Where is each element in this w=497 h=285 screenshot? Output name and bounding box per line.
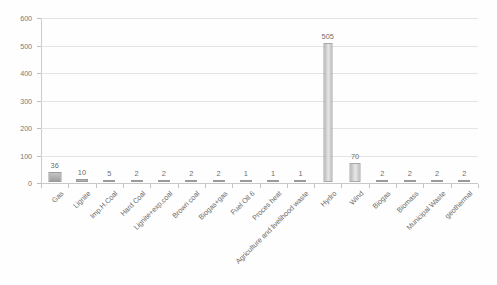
x-axis-tick	[150, 184, 151, 188]
bar-slot: 1	[232, 18, 259, 183]
x-axis-tick	[423, 184, 424, 188]
bar-value-label: 2	[135, 169, 139, 178]
bar-slot: 505	[314, 18, 341, 183]
bars-layer: 361052222111505702222	[41, 18, 478, 183]
x-axis-label-text: Wind	[348, 189, 366, 207]
y-axis-tick-label: 200	[0, 124, 32, 133]
x-axis-label: Hydro	[318, 189, 338, 209]
y-axis-tick-label: 500	[0, 41, 32, 50]
bar-slot: 2	[150, 18, 177, 183]
bar-value-label: 5	[107, 169, 111, 178]
x-axis-tick	[451, 184, 452, 188]
x-axis-label: geothermal	[443, 189, 474, 220]
x-axis-label: Imp.H.Coal	[88, 189, 119, 220]
x-axis-label: Biogas+gas	[196, 189, 229, 222]
bar-slot: 1	[260, 18, 287, 183]
bar-slot: 2	[396, 18, 423, 183]
bar	[376, 180, 388, 183]
bar-chart: 0100200300400500600 36105222211150570222…	[0, 0, 497, 285]
x-axis-tick	[68, 184, 69, 188]
bar-value-label: 2	[380, 169, 384, 178]
bar	[267, 180, 279, 183]
bar	[240, 180, 252, 183]
bar-slot: 10	[68, 18, 95, 183]
bar-slot: 70	[341, 18, 368, 183]
bar	[431, 180, 443, 183]
bar-value-label: 1	[244, 169, 248, 178]
bar-slot: 36	[41, 18, 68, 183]
x-axis-tick	[369, 184, 370, 188]
plot-area: 361052222111505702222	[41, 18, 478, 183]
x-axis-tick	[314, 184, 315, 188]
bar-slot: 2	[423, 18, 450, 183]
bar-slot: 2	[205, 18, 232, 183]
x-axis-label: Lignite	[71, 189, 92, 210]
bar-slot: 2	[178, 18, 205, 183]
x-axis-label-text: geothermal	[443, 189, 474, 220]
y-axis-tick-label: 600	[0, 14, 32, 23]
bar-slot: 2	[451, 18, 478, 183]
bar-slot: 5	[96, 18, 123, 183]
bar	[76, 179, 88, 182]
x-axis-label-text: Biogas+gas	[196, 189, 229, 222]
bar	[404, 180, 416, 183]
x-axis-tick	[287, 184, 288, 188]
bar	[323, 43, 332, 182]
y-axis-tick-label: 0	[0, 179, 32, 188]
bar-slot: 2	[123, 18, 150, 183]
bar-value-label: 2	[189, 169, 193, 178]
x-axis-labels: GasLigniteImp.H.CoalHard CoalLignite+exp…	[41, 189, 478, 285]
x-axis-label-text: Biogas	[371, 189, 393, 211]
x-axis-label-text: Lignite	[71, 189, 92, 210]
bar	[103, 180, 115, 183]
bar	[185, 180, 197, 183]
x-axis-tick	[232, 184, 233, 188]
bar-slot: 1	[287, 18, 314, 183]
bar-value-label: 2	[462, 169, 466, 178]
x-axis-tick	[478, 184, 479, 188]
x-axis-tick	[205, 184, 206, 188]
x-axis-tick	[341, 184, 342, 188]
bar-value-label: 1	[298, 169, 302, 178]
y-axis-tick-label: 400	[0, 69, 32, 78]
bar	[213, 180, 225, 183]
x-axis-label: Biomass	[394, 189, 420, 215]
x-axis-label-text: Imp.H.Coal	[88, 189, 119, 220]
y-axis-tick-label: 300	[0, 96, 32, 105]
x-axis-tick	[41, 184, 42, 188]
bar-value-label: 36	[51, 161, 59, 170]
bar-value-label: 70	[351, 152, 359, 161]
x-axis-tick	[178, 184, 179, 188]
bar	[294, 180, 306, 183]
bar	[131, 180, 143, 183]
x-axis-tick	[96, 184, 97, 188]
bar-value-label: 2	[162, 169, 166, 178]
bar-value-label: 2	[408, 169, 412, 178]
bar-value-label: 2	[435, 169, 439, 178]
bar	[158, 180, 170, 183]
bar-value-label: 2	[216, 169, 220, 178]
bar	[458, 180, 470, 183]
x-axis-label: Wind	[348, 189, 366, 207]
y-axis-tick-label: 100	[0, 151, 32, 160]
bar-value-label: 505	[322, 32, 334, 41]
x-axis-tick	[123, 184, 124, 188]
bar-value-label: 1	[271, 169, 275, 178]
x-axis-label-text: Biomass	[394, 189, 420, 215]
x-axis-label: Gas	[49, 189, 65, 205]
bar	[48, 172, 61, 182]
bar-slot: 2	[369, 18, 396, 183]
x-axis-tick	[396, 184, 397, 188]
x-axis-label: Biogas	[371, 189, 393, 211]
x-axis-label-text: Gas	[49, 189, 65, 205]
bar	[350, 163, 361, 182]
bar-value-label: 10	[78, 168, 86, 177]
x-axis-tick	[260, 184, 261, 188]
x-axis-label-text: Hydro	[318, 189, 338, 209]
